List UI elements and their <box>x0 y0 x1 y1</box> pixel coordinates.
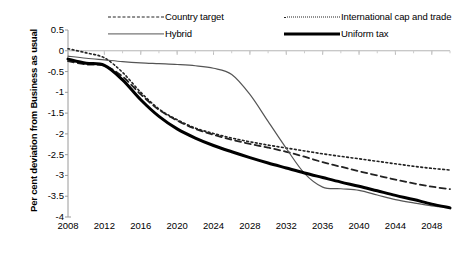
series-line <box>68 61 450 189</box>
plot-area <box>0 0 458 254</box>
chart-container: Per cent deviation from Business as usua… <box>0 0 458 254</box>
series-line <box>68 49 450 170</box>
plot-svg <box>0 0 458 254</box>
series-line <box>68 59 450 208</box>
